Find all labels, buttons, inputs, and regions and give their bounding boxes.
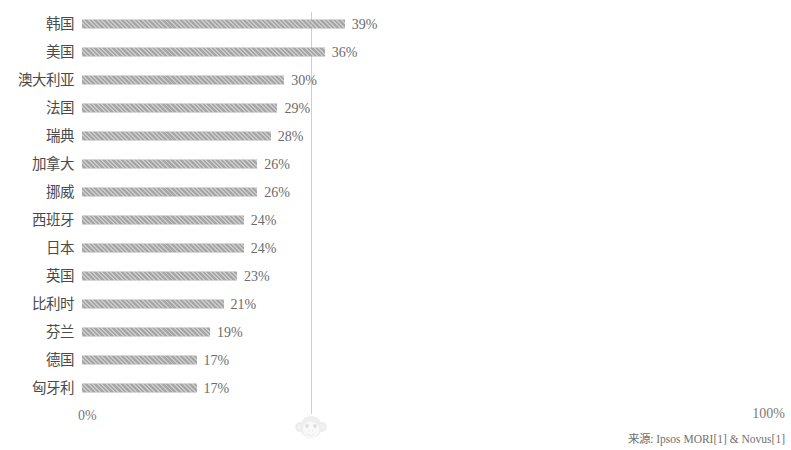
bar — [82, 272, 237, 281]
bar-group: 23% — [82, 272, 270, 281]
bar — [82, 188, 257, 197]
plot-area: 韩国39%美国36%澳大利亚30%法国29%瑞典28%加拿大26%挪威26%西班… — [0, 8, 791, 400]
category-label: 芬兰 — [0, 325, 74, 340]
bar-value-label: 39% — [352, 16, 378, 32]
bar — [82, 356, 197, 365]
bar — [82, 160, 257, 169]
category-label: 比利时 — [0, 297, 74, 312]
bar — [82, 384, 197, 393]
bar — [82, 48, 325, 57]
bar-value-label: 26% — [264, 156, 290, 172]
monkey-face-logo — [294, 414, 328, 441]
category-label: 韩国 — [0, 17, 74, 32]
category-label: 挪威 — [0, 185, 74, 200]
bar-value-label: 17% — [204, 380, 230, 396]
bar-group: 19% — [82, 328, 243, 337]
bar-group: 28% — [82, 132, 303, 141]
bar-row: 匈牙利17% — [0, 374, 791, 402]
bar — [82, 132, 271, 141]
bar-group: 17% — [82, 384, 229, 393]
bar-group: 30% — [82, 76, 317, 85]
category-label: 英国 — [0, 269, 74, 284]
bar-row: 芬兰19% — [0, 318, 791, 346]
bar-row: 美国36% — [0, 38, 791, 66]
bar-row: 比利时21% — [0, 290, 791, 318]
category-label: 法国 — [0, 101, 74, 116]
bar — [82, 244, 244, 253]
bar — [82, 76, 284, 85]
category-label: 德国 — [0, 353, 74, 368]
bar-row: 英国23% — [0, 262, 791, 290]
bar-row: 澳大利亚30% — [0, 66, 791, 94]
bar-value-label: 26% — [264, 184, 290, 200]
bar-group: 26% — [82, 160, 290, 169]
source-note: 来源: Ipsos MORI[1] & Novus[1] — [628, 430, 785, 446]
category-label: 美国 — [0, 45, 74, 60]
category-label: 日本 — [0, 241, 74, 256]
bar — [82, 328, 210, 337]
bar-value-label: 24% — [251, 212, 277, 228]
category-label: 匈牙利 — [0, 381, 74, 396]
bar-value-label: 23% — [244, 268, 270, 284]
bar-group: 39% — [82, 20, 378, 29]
bar-row: 挪威26% — [0, 178, 791, 206]
bar-value-label: 19% — [217, 324, 243, 340]
bar — [82, 20, 345, 29]
bar-group: 24% — [82, 216, 276, 225]
bar-value-label: 21% — [231, 296, 257, 312]
bar-row: 法国29% — [0, 94, 791, 122]
bar-row: 加拿大26% — [0, 150, 791, 178]
bar-row: 瑞典28% — [0, 122, 791, 150]
bar-group: 26% — [82, 188, 290, 197]
category-label: 澳大利亚 — [0, 73, 74, 88]
bar-row: 韩国39% — [0, 10, 791, 38]
bar-value-label: 29% — [284, 100, 310, 116]
bar-value-label: 36% — [332, 44, 358, 60]
axis-max-label: 100% — [752, 406, 785, 422]
bar-group: 24% — [82, 244, 276, 253]
bar-value-label: 24% — [251, 240, 277, 256]
bar-chart: 韩国39%美国36%澳大利亚30%法国29%瑞典28%加拿大26%挪威26%西班… — [0, 0, 791, 450]
bar-value-label: 28% — [278, 128, 304, 144]
bar-row: 德国17% — [0, 346, 791, 374]
bar-group: 29% — [82, 104, 310, 113]
bar — [82, 104, 277, 113]
bar-group: 17% — [82, 356, 229, 365]
bar-row: 西班牙24% — [0, 206, 791, 234]
bar-value-label: 17% — [204, 352, 230, 368]
axis-min-label: 0% — [78, 408, 97, 424]
category-label: 西班牙 — [0, 213, 74, 228]
category-label: 瑞典 — [0, 129, 74, 144]
bar-group: 21% — [82, 300, 256, 309]
bar — [82, 216, 244, 225]
bar-group: 36% — [82, 48, 357, 57]
bar — [82, 300, 224, 309]
bar-row: 日本24% — [0, 234, 791, 262]
bar-value-label: 30% — [291, 72, 317, 88]
category-label: 加拿大 — [0, 157, 74, 172]
